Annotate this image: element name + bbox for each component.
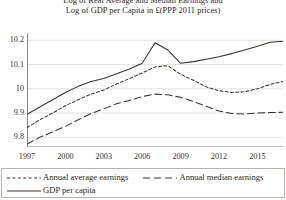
legend-label-annual-average-earnings: Annual average earnings — [42, 173, 128, 182]
plot-canvas — [27, 33, 283, 147]
legend-row-1: Annual average earnings Annual median ea… — [6, 171, 263, 184]
y-axis-tick-label: 9.9 — [0, 109, 24, 117]
legend-row-2: GDP per capita — [6, 184, 96, 197]
legend-key-short-dash-icon — [6, 173, 42, 183]
legend-item-annual-median-earnings: Annual median earnings — [142, 171, 263, 184]
legend-label-gdp-per-capita: GDP per capita — [42, 186, 96, 195]
legend-item-gdp-per-capita: GDP per capita — [6, 184, 96, 197]
x-axis-tick-label: 2009 — [166, 153, 196, 161]
series-line-gdp-per-capita — [27, 41, 283, 114]
series-line-annual-average-earnings — [27, 66, 283, 128]
chart-legend: Annual average earnings Annual median ea… — [1, 168, 285, 198]
chart-title: Log of Real Average and Median Earnings … — [0, 0, 286, 17]
x-axis-tick-label: 1997 — [12, 153, 42, 161]
x-axis-tick-label: 2003 — [89, 153, 119, 161]
plot-area — [27, 33, 283, 147]
x-axis-tick-label: 2006 — [127, 153, 157, 161]
x-axis-tick-label: 2012 — [204, 153, 234, 161]
legend-label-annual-median-earnings: Annual median earnings — [178, 173, 263, 182]
x-axis-tick-label: 2015 — [242, 153, 272, 161]
y-axis-tick-label: 10.1 — [0, 61, 24, 69]
legend-key-solid-line-icon — [6, 186, 42, 196]
legend-item-annual-average-earnings: Annual average earnings — [6, 171, 128, 184]
y-axis-tick-label: 9.8 — [0, 133, 24, 141]
chart-title-line-2: Log of GDP per Capita in £(PPP 2011 pric… — [0, 6, 286, 16]
y-axis-tick-label: 10 — [0, 85, 24, 93]
legend-key-long-dash-icon — [142, 173, 178, 183]
series-line-annual-median-earnings — [27, 94, 283, 144]
y-axis-tick-label: 10.2 — [0, 36, 24, 44]
x-axis-tick-label: 2000 — [50, 153, 80, 161]
chart-figure: Figure 1997 - 2016 Log of Real Average a… — [0, 0, 286, 200]
